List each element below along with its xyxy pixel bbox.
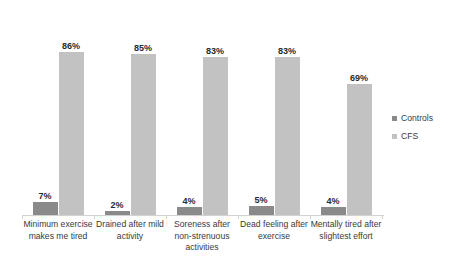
bar-controls[interactable] xyxy=(177,207,202,215)
bar-slot: 83% xyxy=(275,8,300,215)
bar-controls[interactable] xyxy=(33,202,58,215)
bar-controls[interactable] xyxy=(321,207,346,215)
bar-group: 2%85% xyxy=(94,8,166,215)
axis-tick xyxy=(22,215,23,219)
bar-group: 4%83% xyxy=(166,8,238,215)
bar-slot: 4% xyxy=(321,8,346,215)
bar-cfs[interactable] xyxy=(347,84,372,215)
axis-tick xyxy=(382,215,383,219)
bar-value-label: 85% xyxy=(134,43,152,53)
plot-area: 7%86%2%85%4%83%5%83%4%69% xyxy=(22,8,382,215)
axis-tick xyxy=(238,215,239,219)
bar-value-label: 7% xyxy=(38,191,51,201)
category-label: Soreness after non-strenuous activities xyxy=(166,219,238,254)
bar-group: 7%86% xyxy=(22,8,94,215)
axis-tick xyxy=(94,215,95,219)
bar-cfs[interactable] xyxy=(59,52,84,215)
bar-value-label: 4% xyxy=(182,196,195,206)
axis-tick xyxy=(166,215,167,219)
legend-label: Controls xyxy=(401,113,433,123)
category-label: Mentally tired after slightest effort xyxy=(310,219,382,242)
category-label: Drained after mild activity xyxy=(94,219,166,242)
bar-cfs[interactable] xyxy=(131,54,156,216)
bar-slot: 7% xyxy=(33,8,58,215)
x-axis-line xyxy=(22,215,384,216)
bar-value-label: 69% xyxy=(350,73,368,83)
axis-tick xyxy=(310,215,311,219)
bar-slot: 2% xyxy=(105,8,130,215)
legend-swatch-icon xyxy=(392,134,397,139)
category-axis-labels: Minimum exercise makes me tiredDrained a… xyxy=(22,219,382,267)
bar-cfs[interactable] xyxy=(203,57,228,215)
legend-swatch-icon xyxy=(392,116,397,121)
bar-group: 5%83% xyxy=(238,8,310,215)
bar-controls[interactable] xyxy=(249,206,274,216)
bar-value-label: 5% xyxy=(254,195,267,205)
legend-label: CFS xyxy=(401,131,418,141)
bar-value-label: 86% xyxy=(62,41,80,51)
bar-slot: 86% xyxy=(59,8,84,215)
bar-slot: 5% xyxy=(249,8,274,215)
legend-item[interactable]: CFS xyxy=(392,131,458,141)
category-label: Minimum exercise makes me tired xyxy=(22,219,94,242)
chart-legend: ControlsCFS xyxy=(392,113,458,149)
bar-slot: 4% xyxy=(177,8,202,215)
legend-item[interactable]: Controls xyxy=(392,113,458,123)
bar-value-label: 2% xyxy=(110,200,123,210)
bar-slot: 69% xyxy=(347,8,372,215)
bar-value-label: 4% xyxy=(326,196,339,206)
bar-value-label: 83% xyxy=(278,46,296,56)
bar-group: 4%69% xyxy=(310,8,382,215)
bar-chart: 7%86%2%85%4%83%5%83%4%69% Minimum exerci… xyxy=(0,0,460,267)
bar-slot: 85% xyxy=(131,8,156,215)
category-label: Dead feeling after exercise xyxy=(238,219,310,242)
bar-value-label: 83% xyxy=(206,46,224,56)
bar-slot: 83% xyxy=(203,8,228,215)
bar-cfs[interactable] xyxy=(275,57,300,215)
